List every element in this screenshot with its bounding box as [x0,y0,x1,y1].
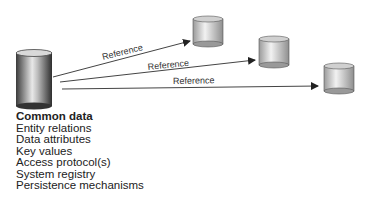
database-2-cylinder [259,36,289,68]
database-1-cylinder [193,16,223,47]
database-3-cylinder [324,63,354,94]
reference-arrow-3 [62,86,318,89]
item-access-protocols: Access protocol(s) [16,157,144,168]
reference-label-2: Reference [147,58,189,72]
reference-label-3: Reference [173,75,215,86]
common-data-cylinder [16,50,52,110]
common-data-description: Common data Entity relations Data attrib… [16,110,144,191]
item-persistence-mechanisms: Persistence mechanisms [16,180,144,191]
